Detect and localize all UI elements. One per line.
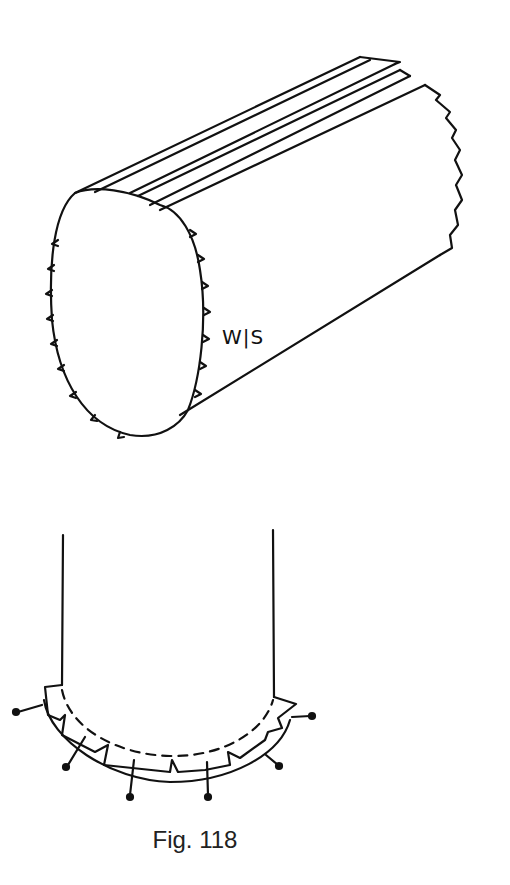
wrong-side-label: W|S	[222, 325, 264, 349]
figure-caption: Fig. 118	[0, 826, 390, 854]
curved-seam-illustration	[13, 530, 315, 800]
fabric-tube-illustration	[46, 57, 462, 438]
figure-drawing	[0, 0, 510, 885]
